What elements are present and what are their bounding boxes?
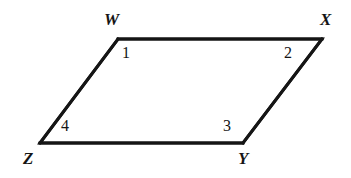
geometry-figure: W X Y Z 1 2 3 4	[0, 0, 351, 178]
vertex-label-w: W	[104, 11, 119, 28]
vertex-label-x: X	[320, 11, 331, 28]
parallelogram-drawing	[0, 0, 351, 178]
vertex-label-y: Y	[238, 150, 248, 167]
angle-label-1: 1	[122, 45, 130, 61]
angle-label-4: 4	[61, 118, 69, 134]
angle-label-3: 3	[223, 118, 231, 134]
figure-background	[0, 0, 351, 178]
vertex-label-z: Z	[23, 150, 33, 167]
angle-label-2: 2	[284, 45, 292, 61]
